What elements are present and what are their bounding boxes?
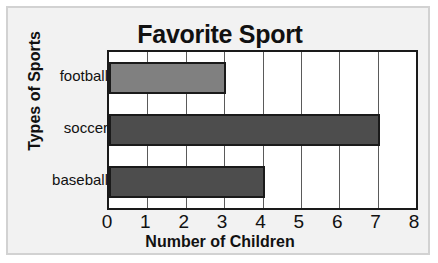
y-tick-label-soccer: soccer — [22, 119, 108, 136]
x-axis-title: Number of Children — [8, 233, 432, 251]
x-tick-label-3: 3 — [209, 211, 235, 233]
x-tick-label-5: 5 — [286, 211, 312, 233]
chart-figure: Favorite Sport Types of Sports footballs… — [6, 6, 430, 255]
chart-title: Favorite Sport — [8, 20, 432, 49]
x-tick-label-2: 2 — [171, 211, 197, 233]
bar-soccer — [109, 114, 380, 146]
x-tick-label-1: 1 — [132, 211, 158, 233]
y-tick-label-football: football — [22, 67, 108, 84]
y-tick-label-baseball: baseball — [22, 171, 108, 188]
x-tick-label-7: 7 — [363, 211, 389, 233]
x-tick-label-0: 0 — [94, 211, 120, 233]
x-tick-label-6: 6 — [324, 211, 350, 233]
x-tick-label-4: 4 — [248, 211, 274, 233]
x-tick-label-group: 012345678 — [107, 211, 418, 235]
bar-baseball — [109, 166, 265, 198]
x-tick-label-8: 8 — [401, 211, 427, 233]
plot-area — [107, 50, 418, 210]
y-tick-label-group: footballsoccerbaseball — [16, 50, 108, 210]
bar-football — [109, 62, 226, 94]
